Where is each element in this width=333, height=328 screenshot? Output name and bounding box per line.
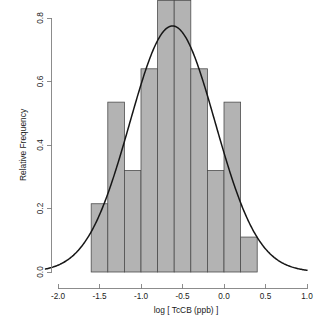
histogram-bar [224, 102, 241, 272]
y-tick-label: 0.0 [36, 266, 45, 278]
x-tick-label: -0.5 [175, 292, 190, 301]
y-tick-label: 0.2 [36, 202, 45, 214]
y-tick-label: 0.8 [36, 12, 45, 24]
y-axis-title: Relative Frequency [18, 108, 28, 181]
y-tick-label: 0.6 [36, 75, 45, 87]
x-tick-label: 0.5 [260, 292, 272, 301]
histogram-plot: 0.00.20.40.60.8 -2.0-1.5-1.0-0.50.00.51.… [0, 0, 333, 328]
y-axis: 0.00.20.40.60.8 [36, 12, 51, 278]
x-axis: -2.0-1.5-1.0-0.50.00.51.0 [51, 284, 313, 302]
histogram-bar [207, 170, 224, 272]
histogram-bar [124, 170, 141, 272]
histogram-bar [241, 237, 258, 272]
x-tick-label: 0.0 [218, 292, 230, 301]
histogram-bar [158, 1, 175, 272]
plot-canvas: 0.00.20.40.60.8 -2.0-1.5-1.0-0.50.00.51.… [0, 0, 333, 328]
histogram-bar [191, 69, 208, 272]
x-tick-label: 1.0 [301, 292, 313, 301]
x-tick-label: -1.0 [134, 292, 149, 301]
x-axis-title: log [ TcCB (ppb) ] [154, 305, 219, 315]
x-tick-label: -1.5 [92, 292, 107, 301]
y-tick-label: 0.4 [36, 139, 45, 151]
histogram-bars [91, 1, 257, 272]
x-tick-label: -2.0 [51, 292, 66, 301]
histogram-bar [141, 69, 158, 272]
